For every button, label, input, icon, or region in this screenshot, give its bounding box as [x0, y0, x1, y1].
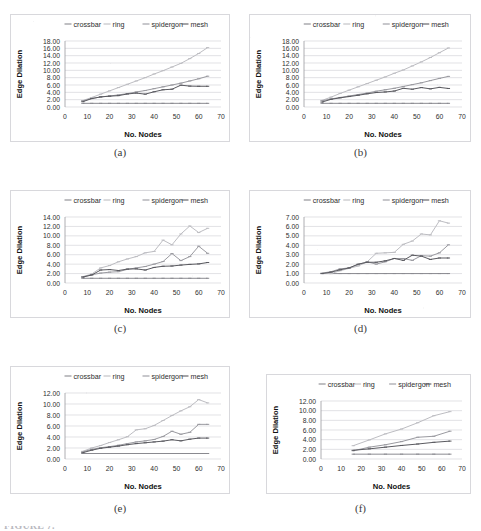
- y-tick-label: 10.00: [299, 407, 316, 414]
- legend-label-ring: ring: [113, 196, 125, 205]
- x-tick-label: 60: [436, 113, 444, 120]
- x-tick-label: 60: [438, 465, 446, 472]
- legend-label-ring: ring: [113, 20, 125, 29]
- legend-label-spidergon: spidergon: [152, 196, 184, 205]
- x-axis: 010203040506070: [302, 113, 466, 120]
- x-tick-label: 0: [302, 289, 306, 296]
- series-mesh: [81, 85, 209, 102]
- x-tick-label: 40: [150, 113, 158, 120]
- y-axis: 0.001.002.003.004.005.006.007.00: [286, 214, 462, 287]
- x-tick-label: 40: [150, 289, 158, 296]
- chart-f: crossbarringspidergonmesh0.002.004.006.0…: [266, 374, 471, 494]
- panel-label-d: (d): [240, 322, 481, 334]
- series-spidergon: [81, 246, 209, 277]
- y-tick-label: 6.00: [47, 423, 60, 430]
- y-tick-label: 0.00: [47, 280, 60, 287]
- y-tick-label: 18.00: [282, 38, 299, 45]
- y-tick-label: 4.00: [47, 434, 60, 441]
- panel-label-f: (f): [240, 502, 481, 514]
- x-tick-label: 30: [368, 113, 376, 120]
- figure-panel-f: crossbarringspidergonmesh0.002.004.006.0…: [240, 352, 481, 531]
- x-tick-label: 70: [458, 465, 466, 472]
- x-tick-label: 50: [418, 465, 426, 472]
- y-tick-label: 6.00: [47, 82, 60, 89]
- y-axis-title: Edge Dilation: [15, 49, 24, 98]
- legend-label-spidergon: spidergon: [152, 20, 184, 29]
- x-tick-label: 60: [436, 289, 444, 296]
- x-tick-label: 20: [106, 113, 114, 120]
- series-line: [322, 221, 448, 274]
- y-tick-label: 10.00: [43, 232, 60, 239]
- chart-legend: crossbarringspidergonmesh: [304, 20, 449, 29]
- legend-label-spidergon: spidergon: [152, 372, 184, 381]
- y-tick-label: 4.00: [47, 89, 60, 96]
- y-tick-label: 10.00: [43, 401, 60, 408]
- x-tick-label: 60: [195, 465, 203, 472]
- x-tick-label: 30: [378, 465, 386, 472]
- legend-label-crossbar: crossbar: [313, 196, 341, 205]
- legend-label-mesh: mesh: [191, 196, 209, 205]
- series-ring: [352, 412, 452, 446]
- x-axis-title: No. Nodes: [124, 482, 162, 491]
- y-axis: 0.002.004.006.008.0010.0012.00: [299, 398, 462, 463]
- figure-panel-grid: crossbarringspidergonmesh0.002.004.006.0…: [0, 0, 481, 531]
- legend-label-mesh: mesh: [431, 196, 449, 205]
- x-tick-label: 40: [391, 113, 399, 120]
- series-line: [83, 400, 208, 452]
- legend-label-crossbar: crossbar: [328, 380, 356, 389]
- x-axis: 010203040506070: [319, 465, 466, 472]
- y-tick-label: 0.00: [303, 456, 316, 463]
- x-tick-label: 20: [106, 465, 114, 472]
- figure-panel-e: crossbarringspidergonmesh0.002.004.006.0…: [0, 352, 240, 531]
- chart-legend: crossbarringspidergonmesh: [319, 380, 451, 389]
- panel-label-a: (a): [0, 146, 240, 158]
- y-tick-label: 8.00: [286, 74, 299, 81]
- series-ring: [320, 221, 450, 274]
- legend-label-spidergon: spidergon: [392, 196, 424, 205]
- chart-canvas: crossbarringspidergonmesh0.002.004.006.0…: [267, 375, 470, 493]
- y-tick-label: 0.00: [286, 280, 299, 287]
- x-axis-title: No. Nodes: [124, 130, 162, 139]
- y-tick-label: 6.00: [286, 82, 299, 89]
- y-tick-label: 12.00: [282, 60, 299, 67]
- chart-e: crossbarringspidergonmesh0.002.004.006.0…: [10, 366, 230, 494]
- legend-label-mesh: mesh: [433, 380, 451, 389]
- x-tick-label: 20: [345, 113, 353, 120]
- y-axis-title: Edge Dilation: [271, 405, 280, 454]
- x-axis-title: No. Nodes: [364, 130, 402, 139]
- y-tick-label: 4.00: [286, 89, 299, 96]
- y-tick-label: 4.00: [303, 436, 316, 443]
- x-tick-label: 30: [128, 289, 136, 296]
- chart-canvas: crossbarringspidergonmesh0.002.004.006.0…: [11, 367, 229, 493]
- x-tick-label: 50: [173, 113, 181, 120]
- y-axis-title: Edge Dilation: [15, 401, 24, 450]
- x-axis: 010203040506070: [302, 289, 466, 296]
- x-tick-label: 10: [84, 465, 92, 472]
- y-tick-label: 6.00: [286, 223, 299, 230]
- legend-label-ring: ring: [352, 196, 364, 205]
- y-axis: 0.002.004.006.008.0010.0012.0014.00: [43, 214, 221, 287]
- y-tick-label: 6.00: [47, 251, 60, 258]
- x-axis: 010203040506070: [63, 465, 225, 472]
- figure-panel-a: crossbarringspidergonmesh0.002.004.006.0…: [0, 0, 240, 176]
- y-tick-label: 8.00: [303, 417, 316, 424]
- x-tick-label: 0: [302, 113, 306, 120]
- y-axis-title: Edge Dilation: [15, 225, 24, 274]
- y-tick-label: 18.00: [43, 38, 60, 45]
- chart-canvas: crossbarringspidergonmesh0.002.004.006.0…: [250, 15, 470, 141]
- x-tick-label: 30: [368, 289, 376, 296]
- legend-label-mesh: mesh: [191, 20, 209, 29]
- x-tick-label: 60: [195, 289, 203, 296]
- y-tick-label: 12.00: [43, 60, 60, 67]
- x-tick-label: 10: [84, 289, 92, 296]
- y-tick-label: 14.00: [43, 52, 60, 59]
- x-tick-label: 10: [337, 465, 345, 472]
- y-tick-label: 2.00: [47, 96, 60, 103]
- series-line: [83, 246, 208, 277]
- y-tick-label: 8.00: [47, 74, 60, 81]
- series-mesh: [352, 441, 452, 450]
- y-axis-title: Edge Dilation: [254, 225, 263, 274]
- x-axis: 010203040506070: [63, 289, 225, 296]
- y-tick-label: 12.00: [43, 223, 60, 230]
- x-tick-label: 70: [217, 465, 225, 472]
